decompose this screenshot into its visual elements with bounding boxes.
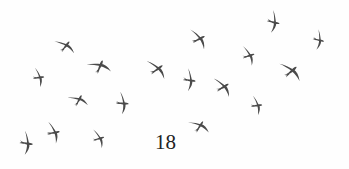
swift-silhouette-icon [185, 23, 215, 53]
swift-silhouette-icon [208, 70, 240, 102]
document-page: 18 [0, 0, 349, 169]
swift-silhouette-icon [183, 108, 218, 143]
swift-silhouette-icon [108, 87, 140, 119]
swift-silhouette-icon [49, 28, 83, 62]
swift-silhouette-icon [62, 82, 95, 115]
swift-silhouette-icon [27, 64, 53, 90]
page-number: 18 [155, 132, 176, 153]
swift-silhouette-icon [42, 119, 69, 146]
swift-silhouette-icon [141, 51, 176, 86]
swift-silhouette-icon [245, 92, 271, 118]
swift-silhouette-icon [81, 46, 119, 84]
swift-silhouette-icon [305, 25, 335, 55]
swift-silhouette-icon [175, 64, 208, 97]
swift-silhouette-icon [258, 5, 292, 39]
swift-silhouette-icon [273, 51, 311, 89]
swift-silhouette-icon [11, 126, 46, 161]
swift-silhouette-icon [89, 127, 111, 149]
swift-silhouette-icon [238, 43, 261, 66]
